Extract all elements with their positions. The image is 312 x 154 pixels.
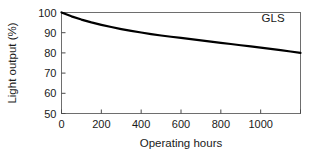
x-tick-label: 400: [132, 118, 150, 130]
y-tick-label: 70: [44, 67, 56, 79]
y-axis-title: Light output (%): [6, 22, 18, 103]
y-tick-label: 60: [44, 87, 56, 99]
x-tick-label: 0: [58, 118, 64, 130]
x-tick-label: 200: [92, 118, 110, 130]
series-label-gls: GLS: [262, 12, 285, 24]
lumen-depreciation-chart: 5060708090100 02004006008001000 GLS Oper…: [0, 0, 312, 154]
x-tick-label: 800: [212, 118, 230, 130]
x-axis-title: Operating hours: [140, 137, 223, 149]
y-tick-label: 90: [44, 27, 56, 39]
x-tick-label: 600: [172, 118, 190, 130]
y-tick-label: 100: [38, 7, 56, 19]
chart-canvas: 5060708090100 02004006008001000 GLS Oper…: [0, 0, 312, 154]
y-tick-label: 50: [44, 108, 56, 120]
y-tick-label: 80: [44, 47, 56, 59]
x-tick-label: 1000: [248, 118, 272, 130]
